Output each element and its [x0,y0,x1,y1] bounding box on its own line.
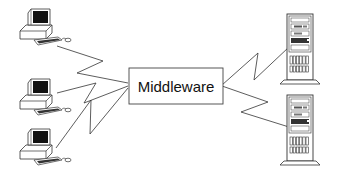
connection-client-2 [57,83,128,103]
server-2 [280,95,320,165]
middleware-diagram: Middleware [0,0,339,173]
server-1 [280,14,320,84]
connection-client-1 [57,46,128,83]
client-computer-3 [20,129,71,165]
middleware-label: Middleware [138,78,215,95]
connection-server-2 [222,86,289,127]
connection-server-1 [222,47,289,85]
client-computer-2 [20,79,71,115]
connection-client-3 [56,88,128,148]
client-computer-1 [20,9,71,45]
middleware-box: Middleware [129,68,223,104]
